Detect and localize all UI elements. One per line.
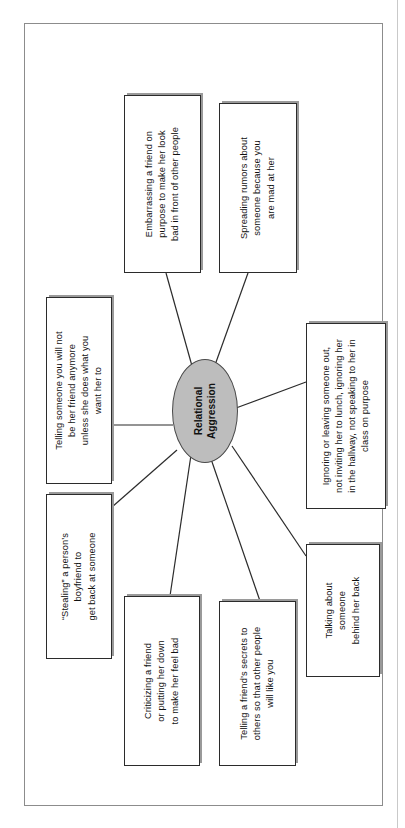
connector-line [232,446,306,556]
node-ignoring: Ignoring or leaving someone out, not inv… [306,323,386,509]
node-label: Ignoring or leaving someone out, not inv… [320,339,373,493]
node-label: Criticizing a friend or putting her down… [142,638,182,725]
node-threat: Telling someone you will not be her frie… [46,297,112,484]
node-label: “Stealing” a person’s boyfriend to get b… [59,532,99,620]
node-label: Embarrassing a friend on purpose to make… [143,127,183,241]
connector-line [166,273,192,366]
center-node-relational-aggression: Relational Aggression [172,359,238,463]
connector-line [215,273,248,365]
node-embarrassing: Embarrassing a friend on purpose to make… [124,95,201,273]
node-label: Talking about someone behind her back [323,577,363,645]
node-talking: Talking about someone behind her back [306,544,380,677]
connector-line [236,382,306,408]
node-label: Spreading rumors about someone because y… [238,137,278,239]
connector-line [112,450,177,507]
scan-edge-line [397,0,398,828]
connector-line [170,455,191,596]
node-label: Telling a friend’s secrets to others so … [238,627,278,740]
node-label: Telling someone you will not be her frie… [53,331,106,450]
node-rumors: Spreading rumors about someone because y… [219,103,297,273]
node-criticizing: Criticizing a friend or putting her down… [124,596,200,766]
center-node-label: Relational Aggression [192,383,218,439]
node-stealing: “Stealing” a person’s boyfriend to get b… [46,494,112,659]
rotated-diagram-wrapper: “Stealing” a person’s boyfriend to get b… [24,23,383,806]
node-secrets: Telling a friend’s secrets to others so … [219,601,296,766]
connector-line [211,459,260,601]
concept-map: “Stealing” a person’s boyfriend to get b… [24,23,383,806]
